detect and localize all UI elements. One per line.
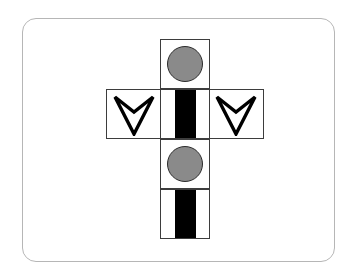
cube-net	[106, 39, 264, 239]
gray-circle-icon	[167, 46, 203, 82]
bottom-face	[160, 189, 210, 239]
right-face	[208, 89, 264, 139]
down-chevron-icon	[214, 92, 258, 136]
black-stripe-icon	[175, 189, 196, 239]
top-face	[160, 39, 210, 89]
black-stripe-icon	[175, 89, 196, 139]
lower-middle-face	[160, 139, 210, 189]
down-chevron-icon	[112, 92, 156, 136]
center-face	[160, 89, 210, 139]
figure-canvas	[0, 0, 362, 280]
gray-circle-icon	[167, 146, 203, 182]
left-face	[106, 89, 162, 139]
